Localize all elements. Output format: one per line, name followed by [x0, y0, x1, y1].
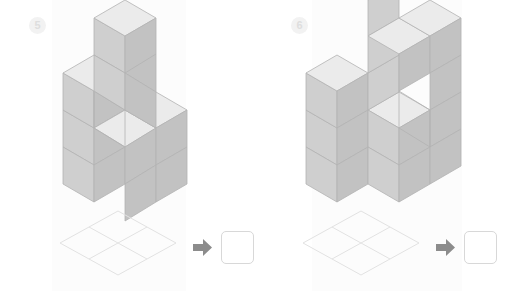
answer-row-6 [436, 231, 497, 264]
worksheet-canvas: 5 [0, 0, 532, 291]
exercise-panel-5: 5 [0, 0, 266, 291]
arrow-right-icon [193, 239, 212, 256]
arrow-right-icon [436, 239, 455, 256]
answer-box-6[interactable] [464, 231, 497, 264]
exercise-panel-6: 6 [266, 0, 532, 291]
answer-row-5 [193, 231, 254, 264]
answer-box-5[interactable] [221, 231, 254, 264]
